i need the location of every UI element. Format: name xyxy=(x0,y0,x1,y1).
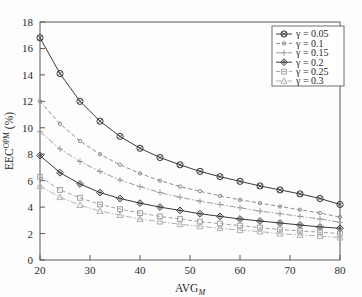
y-tick-label-16: 16 xyxy=(22,42,34,54)
y-tick-label-12: 12 xyxy=(22,95,33,107)
y-tick-label-10: 10 xyxy=(22,122,34,134)
legend: γ = 0.05γ = 0.1γ = 0.15γ = 0.2γ = 0.25γ … xyxy=(272,26,344,86)
x-tick-label-60: 60 xyxy=(235,264,247,276)
x-tick-label-20: 20 xyxy=(35,264,47,276)
series-line-4 xyxy=(40,177,340,234)
y-tick-label-6: 6 xyxy=(28,175,34,187)
y-tick-label-2: 2 xyxy=(28,228,34,240)
svg-text:EECOPM (%): EECOPM (%) xyxy=(2,112,16,170)
series-line-3 xyxy=(40,156,340,229)
x-axis-title: AVGM xyxy=(175,282,206,297)
series-1 xyxy=(38,100,341,219)
y-tick-label-0: 0 xyxy=(28,254,34,266)
y-tick-label-14: 14 xyxy=(22,69,34,81)
line-chart: 20304050607080024681012141618AVGMEECOPM … xyxy=(0,0,362,297)
y-tick-label-18: 18 xyxy=(22,16,34,28)
legend-label-5: γ = 0.3 xyxy=(295,75,324,86)
chart-figure: 20304050607080024681012141618AVGMEECOPM … xyxy=(0,0,362,297)
x-tick-label-70: 70 xyxy=(285,264,297,276)
x-tick-label-40: 40 xyxy=(135,264,147,276)
series-line-2 xyxy=(40,132,340,223)
y-tick-label-8: 8 xyxy=(28,148,34,160)
x-tick-label-50: 50 xyxy=(185,264,197,276)
y-tick-label-4: 4 xyxy=(28,201,34,213)
y-axis-title: EECOPM (%) xyxy=(2,112,16,170)
x-tick-label-30: 30 xyxy=(85,264,97,276)
x-tick-label-80: 80 xyxy=(335,264,347,276)
